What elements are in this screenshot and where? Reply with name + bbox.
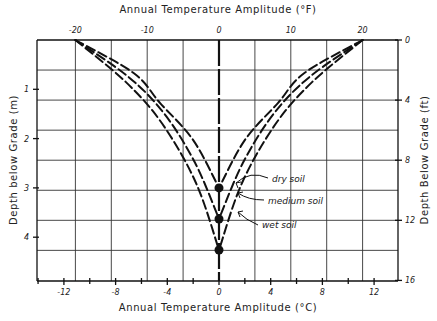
dry-soil-label: dry soil: [272, 174, 305, 184]
left-tick-label: 1: [24, 85, 29, 94]
top-axis-title: Annual Temperature Amplitude (°F): [119, 4, 316, 15]
left-tick-label: 3: [24, 184, 29, 193]
soil-temperature-chart: -20-1001020-12-8-40481212340481216 dry s…: [0, 0, 437, 321]
right-tick-label: 16: [405, 276, 415, 285]
top-tick-label: -20: [69, 26, 82, 35]
arrow-head-icon: [236, 182, 241, 188]
axes: -20-1001020-12-8-40481212340481216: [24, 26, 415, 297]
left-tick-label: 4: [24, 233, 29, 242]
bottom-tick-label: 4: [268, 288, 273, 297]
right-axis-title: Depth Below Grade (ft): [419, 96, 430, 225]
medium-soil-label: medium soil: [268, 196, 324, 206]
right-tick-label: 0: [405, 36, 410, 45]
bottom-tick-label: -12: [57, 288, 70, 297]
right-tick-label: 4: [405, 96, 410, 105]
bottom-tick-label: -4: [163, 288, 171, 297]
medium-soil-leader-line: [238, 193, 264, 200]
right-tick-label: 8: [405, 156, 410, 165]
bottom-tick-label: 0: [216, 288, 221, 297]
annotations: dry soilmedium soilwet soil: [236, 174, 324, 230]
left-axis-title: Depth below Grade (m): [8, 95, 19, 225]
left-tick-label: 2: [24, 135, 29, 144]
bottom-axis-title: Annual Temperature Amplitude (°C): [119, 302, 317, 313]
bottom-tick-label: 12: [369, 288, 379, 297]
top-tick-label: 10: [286, 26, 296, 35]
bottom-tick-label: -8: [112, 288, 120, 297]
right-tick-label: 12: [405, 216, 415, 225]
bottom-tick-label: 8: [320, 288, 325, 297]
top-tick-label: 0: [216, 26, 221, 35]
wet-soil-label: wet soil: [262, 220, 297, 230]
top-tick-label: -10: [141, 26, 154, 35]
top-tick-label: 20: [358, 26, 368, 35]
